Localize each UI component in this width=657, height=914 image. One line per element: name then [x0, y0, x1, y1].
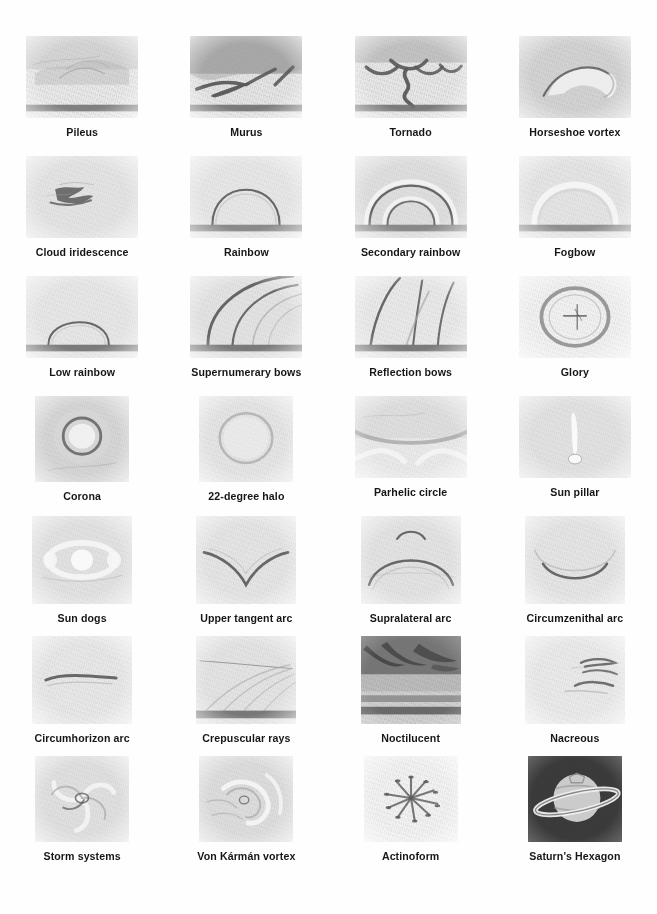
low-rainbow-sketch [26, 276, 138, 358]
murus-sketch [190, 36, 302, 118]
crepuscular-rays-sketch [196, 636, 296, 724]
halo-22-degree-sketch [199, 396, 293, 482]
phenomenon-label: Upper tangent arc [200, 613, 292, 625]
phenomenon-cell: Secondary rainbow [329, 156, 493, 276]
reflection-bows-sketch [355, 276, 467, 358]
phenomenon-label: Rainbow [224, 247, 269, 259]
actinoform-sketch [364, 756, 458, 842]
phenomenon-label: Supernumerary bows [191, 367, 301, 379]
fogbow-sketch [519, 156, 631, 238]
phenomenon-cell: Low rainbow [0, 276, 164, 396]
phenomenon-label: Glory [561, 367, 589, 379]
storm-systems-sketch [35, 756, 129, 842]
phenomenon-cell: Crepuscular rays [164, 636, 328, 756]
phenomenon-label: Sun pillar [550, 487, 599, 499]
parhelic-circle-sketch [355, 396, 467, 478]
phenomenon-label: Actinoform [382, 851, 440, 863]
phenomenon-cell: Pileus [0, 36, 164, 156]
phenomenon-cell: Corona [0, 396, 164, 516]
phenomenon-label: Horseshoe vortex [529, 127, 620, 139]
phenomenon-cell: Supralateral arc [329, 516, 493, 636]
phenomenon-label: Reflection bows [369, 367, 452, 379]
phenomenon-cell: Upper tangent arc [164, 516, 328, 636]
phenomenon-label: Parhelic circle [374, 487, 447, 499]
phenomenon-cell: Fogbow [493, 156, 657, 276]
phenomenon-label: 22-degree halo [208, 491, 284, 503]
phenomenon-cell: Noctilucent [329, 636, 493, 756]
phenomenon-label: Murus [230, 127, 262, 139]
phenomenon-label: Secondary rainbow [361, 247, 460, 259]
sun-dogs-sketch [32, 516, 132, 604]
phenomenon-label: Corona [63, 491, 101, 503]
phenomenon-cell: Saturn's Hexagon [493, 756, 657, 876]
phenomenon-cell: Actinoform [329, 756, 493, 876]
phenomenon-label: Nacreous [550, 733, 599, 745]
phenomenon-cell: Reflection bows [329, 276, 493, 396]
illustration-plate: PileusMurusTornadoHorseshoe vortexCloud … [0, 0, 657, 914]
phenomenon-cell: Parhelic circle [329, 396, 493, 516]
phenomenon-label: Supralateral arc [370, 613, 452, 625]
phenomenon-cell: Horseshoe vortex [493, 36, 657, 156]
nacreous-sketch [525, 636, 625, 724]
phenomena-grid: PileusMurusTornadoHorseshoe vortexCloud … [0, 36, 657, 876]
phenomenon-label: Circumzenithal arc [527, 613, 624, 625]
rainbow-sketch [190, 156, 302, 238]
cloud-iridescence-sketch [26, 156, 138, 238]
circumzenithal-arc-sketch [525, 516, 625, 604]
phenomenon-cell: Supernumerary bows [164, 276, 328, 396]
supernumerary-bows-sketch [190, 276, 302, 358]
tornado-sketch [355, 36, 467, 118]
phenomenon-cell: Sun pillar [493, 396, 657, 516]
phenomenon-label: Noctilucent [381, 733, 440, 745]
supralateral-arc-sketch [361, 516, 461, 604]
phenomenon-label: Saturn's Hexagon [529, 851, 620, 863]
circumhorizon-arc-sketch [32, 636, 132, 724]
corona-sketch [35, 396, 129, 482]
horseshoe-vortex-sketch [519, 36, 631, 118]
von-karman-vortex-sketch [199, 756, 293, 842]
phenomenon-label: Fogbow [554, 247, 595, 259]
phenomenon-cell: Von Kármán vortex [164, 756, 328, 876]
phenomenon-label: Pileus [66, 127, 98, 139]
phenomenon-label: Low rainbow [49, 367, 115, 379]
phenomenon-cell: Murus [164, 36, 328, 156]
phenomenon-label: Sun dogs [58, 613, 107, 625]
saturns-hexagon-sketch [528, 756, 622, 842]
upper-tangent-arc-sketch [196, 516, 296, 604]
phenomenon-label: Crepuscular rays [202, 733, 290, 745]
phenomenon-cell: Rainbow [164, 156, 328, 276]
phenomenon-cell: Glory [493, 276, 657, 396]
phenomenon-cell: 22-degree halo [164, 396, 328, 516]
phenomenon-label: Circumhorizon arc [34, 733, 129, 745]
secondary-rainbow-sketch [355, 156, 467, 238]
glory-sketch [519, 276, 631, 358]
phenomenon-cell: Nacreous [493, 636, 657, 756]
phenomenon-cell: Circumzenithal arc [493, 516, 657, 636]
phenomenon-cell: Sun dogs [0, 516, 164, 636]
phenomenon-cell: Circumhorizon arc [0, 636, 164, 756]
noctilucent-sketch [361, 636, 461, 724]
phenomenon-label: Tornado [389, 127, 431, 139]
pileus-sketch [26, 36, 138, 118]
sun-pillar-sketch [519, 396, 631, 478]
phenomenon-cell: Tornado [329, 36, 493, 156]
phenomenon-label: Storm systems [43, 851, 120, 863]
phenomenon-label: Von Kármán vortex [197, 851, 295, 863]
phenomenon-cell: Cloud iridescence [0, 156, 164, 276]
phenomenon-cell: Storm systems [0, 756, 164, 876]
phenomenon-label: Cloud iridescence [36, 247, 129, 259]
